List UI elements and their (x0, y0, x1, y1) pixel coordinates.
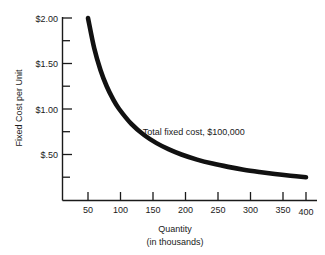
x-axis-title: Quantity (158, 224, 192, 234)
x-tick-label-250: 250 (210, 205, 225, 215)
x-tick-label-400: 400 (298, 207, 313, 217)
x-tick-label-200: 200 (178, 205, 193, 215)
y-tick-label-0-50: $.50 (40, 150, 58, 160)
x-axis-title-sub: (in thousands) (146, 237, 203, 247)
x-tick-label-100: 100 (113, 205, 128, 215)
x-tick-label-350: 350 (275, 205, 290, 215)
y-axis-title: Fixed Cost per Unit (14, 69, 24, 147)
fixed-cost-per-unit-chart: $2.00 $1.50 $1.00 $.50 50 100 150 200 25… (0, 0, 325, 255)
x-tick-label-50: 50 (83, 205, 93, 215)
y-tick-label-1-50: $1.50 (35, 59, 58, 69)
chart-container: $2.00 $1.50 $1.00 $.50 50 100 150 200 25… (0, 0, 325, 255)
x-tick-label-150: 150 (145, 205, 160, 215)
x-tick-label-300: 300 (243, 205, 258, 215)
y-tick-label-2-00: $2.00 (35, 14, 58, 24)
y-tick-label-1-00: $1.00 (35, 105, 58, 115)
curve-annotation: Total fixed cost, $100,000 (143, 127, 245, 137)
